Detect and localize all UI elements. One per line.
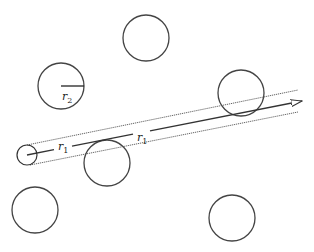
path-center-line (27, 150, 54, 155)
r1-label-left: r1 (58, 140, 68, 155)
target-particles (12, 15, 264, 241)
target-particle (218, 70, 264, 116)
cylinder-lower-edge (30, 112, 298, 165)
target-particle (123, 15, 169, 61)
collision-diagram: r1 r1 r2 (0, 0, 314, 252)
target-particle (12, 187, 58, 233)
target-particle (209, 195, 255, 241)
r1-label-right: r1 (137, 131, 147, 146)
r2-label: r2 (62, 90, 72, 105)
path-center-line (72, 134, 133, 146)
path-center-line-arrow (150, 101, 302, 131)
